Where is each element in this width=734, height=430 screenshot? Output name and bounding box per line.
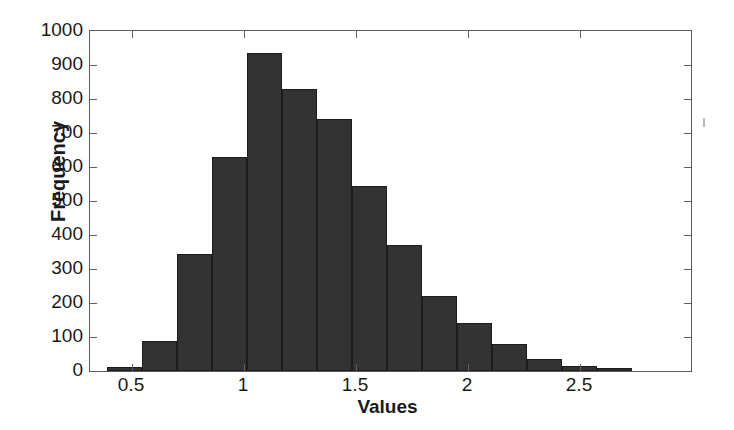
y-tick-label: 500 xyxy=(17,189,83,211)
histogram-bar xyxy=(352,186,387,371)
y-tick-mark-right xyxy=(684,201,691,202)
x-tick-mark xyxy=(244,364,245,371)
y-tick-mark-right xyxy=(684,235,691,236)
y-tick-mark-right xyxy=(684,133,691,134)
y-tick-mark-right xyxy=(684,99,691,100)
y-tick-mark xyxy=(90,235,97,236)
histogram-bar xyxy=(212,157,247,371)
scan-artifact-mark xyxy=(703,118,705,127)
x-tick-label: 2 xyxy=(432,374,502,396)
histogram-bar xyxy=(317,119,352,371)
y-tick-label: 400 xyxy=(17,223,83,245)
x-tick-label: 2.5 xyxy=(544,374,614,396)
histogram-bar xyxy=(527,359,562,371)
y-tick-mark xyxy=(90,99,97,100)
histogram-bar xyxy=(282,89,317,371)
y-tick-mark xyxy=(90,303,97,304)
histogram-bar xyxy=(107,367,142,371)
y-tick-mark xyxy=(90,269,97,270)
y-tick-mark xyxy=(90,167,97,168)
y-tick-mark xyxy=(90,65,97,66)
y-tick-label: 100 xyxy=(17,325,83,347)
histogram-bar xyxy=(247,53,282,371)
x-tick-mark xyxy=(580,364,581,371)
x-tick-mark-top xyxy=(356,31,357,38)
plot-area xyxy=(89,30,692,372)
histogram-bar xyxy=(492,344,527,371)
y-tick-label: 300 xyxy=(17,257,83,279)
histogram-bar xyxy=(177,254,212,371)
x-tick-label: 1.5 xyxy=(320,374,390,396)
y-tick-mark-right xyxy=(684,65,691,66)
y-tick-mark-right xyxy=(684,337,691,338)
x-tick-label: 1 xyxy=(208,374,278,396)
x-tick-mark-top xyxy=(468,31,469,38)
histogram-bar xyxy=(597,368,632,371)
y-tick-label: 900 xyxy=(17,53,83,75)
histogram-bar xyxy=(387,245,422,371)
y-tick-mark xyxy=(90,133,97,134)
y-tick-mark xyxy=(90,201,97,202)
y-tick-mark-right xyxy=(684,303,691,304)
x-axis-label: Values xyxy=(85,396,690,418)
x-tick-mark xyxy=(468,364,469,371)
x-tick-mark xyxy=(132,364,133,371)
histogram-bar xyxy=(142,341,177,371)
histogram-bar xyxy=(457,323,492,371)
y-tick-label: 0 xyxy=(17,359,83,381)
x-tick-mark xyxy=(356,364,357,371)
y-tick-mark-right xyxy=(684,269,691,270)
x-tick-label: 0.5 xyxy=(96,374,166,396)
y-tick-label: 700 xyxy=(17,121,83,143)
histogram-bar xyxy=(422,296,457,371)
x-tick-mark-top xyxy=(244,31,245,38)
y-tick-label: 800 xyxy=(17,87,83,109)
x-tick-mark-top xyxy=(132,31,133,38)
y-tick-mark-right xyxy=(684,167,691,168)
y-tick-label: 200 xyxy=(17,291,83,313)
histogram-figure: Frequency 0.511.522.5 010020030040050060… xyxy=(0,0,734,430)
y-tick-mark xyxy=(90,337,97,338)
y-tick-label: 1000 xyxy=(17,19,83,41)
x-tick-mark-top xyxy=(580,31,581,38)
y-tick-label: 600 xyxy=(17,155,83,177)
